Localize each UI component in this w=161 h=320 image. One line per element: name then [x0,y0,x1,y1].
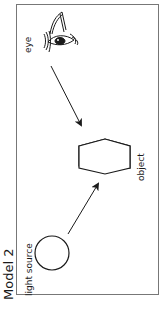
diagram-title: Model 2 [1,249,16,300]
light-source-icon [35,236,69,270]
eye-label: eye [23,36,33,53]
eye-icon [44,12,78,52]
object-label: object [136,153,146,181]
model-diagram: Model 2 light source object eye [0,0,161,320]
light-source-label: light source [24,243,34,296]
eye-to-object-arrow [51,66,81,125]
light-to-object-arrow [68,184,98,234]
